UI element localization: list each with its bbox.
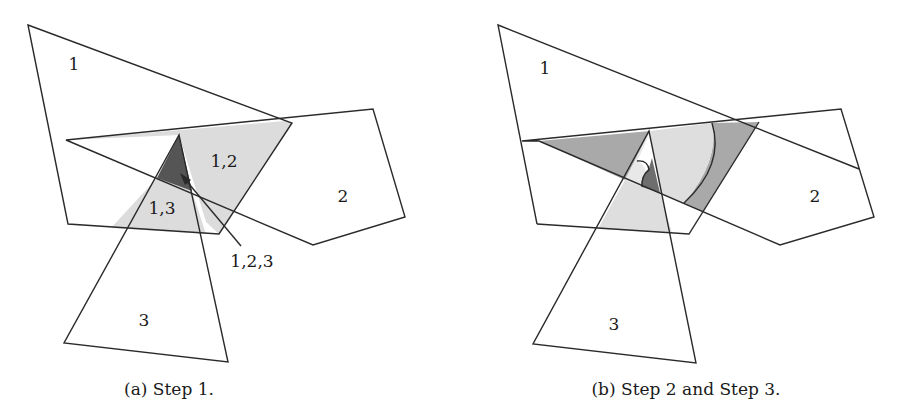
label-1: 1	[540, 58, 551, 78]
label-3: 3	[609, 314, 620, 334]
caption-a: (a) Step 1.	[124, 379, 214, 399]
caption-b: (b) Step 2 and Step 3.	[591, 379, 780, 399]
label-1-2: 1,2	[210, 151, 237, 171]
label-2: 2	[338, 186, 349, 206]
label-2: 2	[810, 186, 821, 206]
panel-a: 1 1,2 1,3 2 3 1,2,3 (a) Step 1.	[28, 25, 405, 399]
label-3: 3	[139, 310, 150, 330]
label-1-2-3: 1,2,3	[230, 251, 273, 271]
label-1: 1	[69, 54, 80, 74]
label-1-3: 1,3	[148, 198, 175, 218]
polygon-overlay-figure: 1 1,2 1,3 2 3 1,2,3 (a) Step 1. 1 2 3 (b…	[0, 0, 907, 418]
panel-b: 1 2 3 (b) Step 2 and Step 3.	[498, 25, 874, 399]
